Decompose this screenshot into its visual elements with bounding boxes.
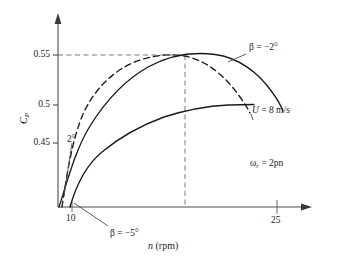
annotation-beta-minus-2: β = −2° [249, 42, 278, 52]
x-tick-label-10: 10 [66, 213, 76, 223]
y-axis-title: CP [18, 113, 31, 124]
y-tick-label-05: 0.5 [22, 99, 50, 109]
reference-lines [58, 55, 188, 207]
curve-2-deg [62, 55, 250, 207]
curve-beta-minus-2 [59, 54, 283, 207]
annotation-beta-minus-5: β = −5° [110, 228, 139, 238]
y-tick-label-045: 0.45 [22, 137, 50, 147]
annotation-omega-relation: ωr = 2pn [250, 158, 283, 170]
y-axis-title-main: C [18, 117, 29, 124]
x-tick-label-25: 25 [271, 215, 281, 225]
curve-group [59, 54, 283, 207]
y-tick-label-055: 0.55 [22, 49, 50, 59]
chart-canvas [0, 0, 338, 267]
curve-beta-minus-5 [70, 105, 254, 208]
x-axis-arrow-icon [301, 204, 312, 211]
annotation-wind-speed: U = 8 m/s [252, 105, 290, 115]
annotation-2-deg: 2° [67, 134, 76, 144]
annotation-omega-rest: = 2pn [259, 158, 283, 168]
chart-figure: 0.55 0.5 0.45 CP 10 25 n (rpm) β = −2° 2… [0, 0, 338, 267]
x-axis-title: n (rpm) [148, 240, 178, 251]
y-axis-arrow-icon [55, 13, 62, 24]
annotation-wind-speed-symbol: U [252, 105, 259, 115]
y-tick-marks [53, 55, 58, 143]
annotation-wind-speed-value: = 8 m/s [259, 105, 290, 115]
annotation-leaders [64, 54, 253, 226]
y-axis-title-sub: P [23, 113, 31, 117]
x-axis-title-rest: (rpm) [153, 240, 178, 251]
